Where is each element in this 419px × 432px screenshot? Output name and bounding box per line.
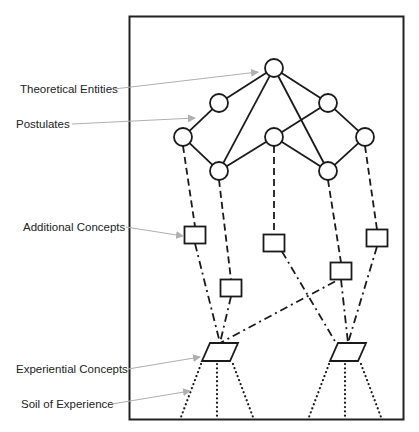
- correspondence-rule-line: [365, 146, 377, 230]
- theoretical-entity-node: [265, 59, 283, 77]
- postulate-node: [265, 128, 283, 146]
- operational-link-line: [220, 297, 231, 344]
- postulate-node: [319, 162, 337, 180]
- postulate-node: [319, 94, 337, 112]
- postulate-edge: [190, 109, 213, 131]
- pointer-arrow-icon: [112, 391, 190, 404]
- postulate-node: [174, 128, 192, 146]
- label-text: Postulates: [16, 118, 70, 130]
- additional-concept-box: [221, 280, 242, 297]
- postulate-edge: [190, 143, 213, 165]
- correspondence-rule-line: [183, 146, 195, 227]
- correspondence-rule-line: [328, 180, 341, 263]
- postulate-node: [210, 162, 228, 180]
- pointer-arrow-icon: [126, 227, 183, 236]
- postulate-node: [356, 128, 374, 146]
- correspondence-rule-line: [219, 180, 231, 280]
- additional-concept-box: [331, 263, 352, 280]
- postulate-node: [210, 94, 228, 112]
- postulate-edge: [335, 109, 359, 131]
- pointer-arrow-icon: [128, 357, 200, 369]
- additional-concept-box: [264, 235, 285, 252]
- pointer-arrow-icon: [114, 72, 258, 89]
- soil-root-line: [361, 364, 381, 417]
- label-postulates: Postulates: [16, 118, 195, 130]
- additional-concept-boxes: [185, 227, 388, 297]
- label-text: Soil of Experience: [21, 398, 114, 410]
- soil-of-experience-roots: [181, 364, 381, 417]
- operational-link-line: [282, 252, 336, 344]
- experiential-concept-shape: [202, 343, 238, 361]
- experiential-concept-shapes: [202, 343, 366, 361]
- pointer-arrow-icon: [72, 118, 195, 124]
- label-text: Additional Concepts: [23, 221, 126, 233]
- operational-link-line: [348, 247, 377, 344]
- additional-concept-box: [367, 230, 388, 247]
- postulate-edge: [335, 143, 359, 165]
- theory-structure-diagram: Theoretical Entities Postulates Addition…: [0, 0, 419, 432]
- soil-root-line: [309, 364, 329, 417]
- postulate-edge: [282, 108, 321, 132]
- label-theoretical-entities: Theoretical Entities: [20, 72, 258, 95]
- diagram-frame: [130, 17, 404, 420]
- postulate-edge: [223, 76, 270, 163]
- label-text: Experiential Concepts: [16, 363, 128, 375]
- label-text: Theoretical Entities: [20, 83, 118, 95]
- experiential-concept-shape: [330, 343, 366, 361]
- label-experiential-concepts: Experiential Concepts: [16, 357, 200, 375]
- label-soil-of-experience: Soil of Experience: [21, 391, 190, 410]
- operational-link-line: [341, 280, 348, 344]
- soil-root-line: [233, 364, 253, 417]
- label-additional-concepts: Additional Concepts: [23, 221, 183, 236]
- operational-link-line: [195, 244, 220, 344]
- additional-concept-box: [185, 227, 206, 244]
- soil-root-line: [181, 364, 201, 417]
